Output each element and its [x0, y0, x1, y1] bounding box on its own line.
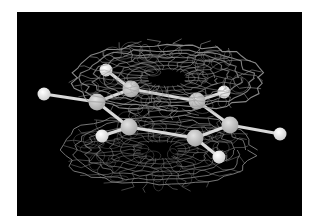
atom-layer: [38, 64, 287, 164]
benzene-orbital-scene: [17, 12, 302, 216]
hydrogen-atom-H6: [96, 130, 109, 143]
carbon-atom-C6: [121, 119, 138, 136]
molecule-render-viewport: [17, 12, 302, 216]
hydrogen-atom-H4: [274, 128, 287, 141]
hydrogen-atom-H5: [213, 151, 226, 164]
carbon-atom-C4: [222, 117, 239, 134]
hydrogen-atom-H1: [38, 88, 51, 101]
carbon-atom-C5: [187, 130, 204, 147]
